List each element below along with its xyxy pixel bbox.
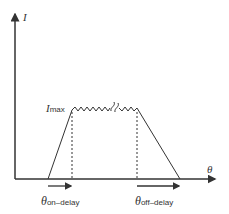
on-delay-subscript: on–delay [47, 198, 79, 207]
peak-label: Imax [46, 98, 65, 116]
plateau-zigzag [72, 107, 110, 111]
off-delay-label: θoff–delay [135, 191, 173, 209]
current-profile-diagram [0, 0, 229, 214]
break-symbol [111, 102, 119, 112]
peak-subscript: max [50, 105, 65, 114]
plateau-zigzag-2 [119, 107, 137, 111]
rise-line [48, 110, 72, 179]
off-delay-subscript: off–delay [141, 198, 173, 207]
fall-line [137, 108, 180, 179]
on-delay-label: θon–delay [41, 191, 79, 209]
y-axis-label: I [23, 11, 27, 23]
x-axis-label: θ [207, 163, 212, 175]
